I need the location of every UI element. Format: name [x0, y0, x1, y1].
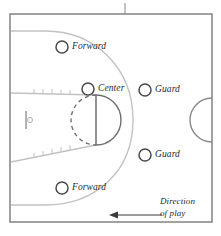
court-frame	[10, 14, 212, 222]
direction-of-play-arrow	[109, 212, 162, 219]
center-circle	[190, 98, 212, 142]
free-throw-circle-solid-half	[96, 95, 121, 145]
label-forward-top: Forward	[72, 41, 106, 52]
player-marker-forward-top[interactable]	[56, 41, 68, 53]
player-marker-guard-bottom[interactable]	[139, 149, 151, 161]
hoop-icon	[28, 118, 33, 123]
player-marker-forward-bottom[interactable]	[56, 182, 68, 194]
direction-of-play-line2: of play	[160, 208, 195, 220]
player-marker-center[interactable]	[82, 83, 94, 95]
direction-of-play-label: Direction of play	[160, 196, 195, 219]
label-forward-bottom: Forward	[72, 182, 106, 193]
player-marker-guard-top[interactable]	[139, 84, 151, 96]
basketball-court-diagram: Forward Center Guard Guard Forward Direc…	[0, 0, 221, 236]
label-center: Center	[98, 83, 124, 94]
label-guard-bottom: Guard	[155, 149, 180, 160]
lane-line-lower	[11, 145, 96, 162]
label-guard-top: Guard	[155, 84, 180, 95]
free-throw-circle-dashed-half	[71, 95, 96, 145]
direction-of-play-line1: Direction	[160, 196, 195, 208]
